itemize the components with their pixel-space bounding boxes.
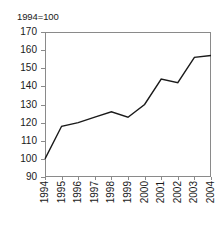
x-axis-tick-label: 1996 [73,181,83,203]
x-axis-tick-label: 1998 [106,181,116,203]
y-axis-tick-label: 170 [20,27,37,37]
index-base-annotation: 1994=100 [17,11,59,22]
x-axis-tick-label: 2001 [156,181,166,203]
index-series-line [45,56,211,159]
y-axis-tick-label: 160 [20,45,37,55]
y-axis-tick-label: 150 [20,63,37,73]
y-axis-tick-label: 110 [21,136,37,146]
y-axis-tick-label: 130 [20,100,37,110]
x-axis-tick-label: 1999 [123,181,133,203]
x-axis-tick-labels: 1994199519961997199819992000200120022003… [45,177,211,228]
x-axis-tick-label: 2004 [206,181,216,203]
line-chart-figure: 1994=100 90100110120130140150160170 1994… [0,0,224,228]
x-axis-tick-mark [211,177,212,180]
x-axis-tick-label: 1994 [40,181,50,203]
x-axis-tick-label: 2000 [140,181,150,203]
data-series-plot [45,32,211,177]
y-axis-tick-labels: 90100110120130140150160170 [0,32,45,177]
y-axis-tick-label: 90 [26,172,37,182]
x-axis-tick-label: 2002 [173,181,183,203]
y-axis-tick-label: 100 [20,154,37,164]
y-axis-tick-label: 140 [20,81,37,91]
y-axis-tick-label: 120 [20,118,37,128]
x-axis-tick-label: 2003 [189,181,199,203]
x-axis-tick-label: 1995 [57,181,67,203]
x-axis-tick-label: 1997 [90,181,100,203]
